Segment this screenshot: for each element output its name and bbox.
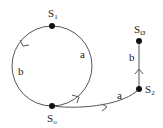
edge-s0-s2 xyxy=(52,89,139,107)
node-label-s0: So xyxy=(47,112,57,126)
edge-label-b-left: b xyxy=(18,65,24,77)
node-label-s1: S1 xyxy=(48,7,58,21)
edge-label-a-bottom: a xyxy=(117,89,122,101)
node-label-so: SØ xyxy=(134,23,145,37)
node-s0 xyxy=(49,103,55,109)
state-diagram: S1 So S2 SØ b a a b xyxy=(0,0,163,128)
node-s2 xyxy=(136,86,142,92)
arrow-a-right-icon xyxy=(72,95,79,103)
node-label-s2: S2 xyxy=(145,83,155,97)
loop-edge-circle xyxy=(12,26,92,106)
edge-label-a-right: a xyxy=(80,48,85,60)
node-s1 xyxy=(49,23,55,29)
node-so xyxy=(136,38,142,44)
edge-label-b-vertical: b xyxy=(129,51,135,63)
